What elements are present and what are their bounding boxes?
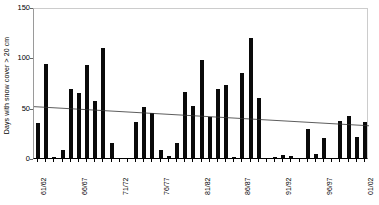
x-axis-tick-mark <box>192 159 193 162</box>
x-axis-tick-mark <box>201 159 202 162</box>
x-axis-tick-mark <box>282 159 283 162</box>
x-axis-tick-mark <box>315 159 316 162</box>
x-axis-tick-label: 71/72 <box>122 177 129 195</box>
plot-area <box>33 8 368 159</box>
x-axis-tick-mark <box>364 159 365 162</box>
x-axis-tick-mark <box>135 159 136 162</box>
x-axis-tick-mark <box>356 159 357 162</box>
x-axis-tick-labels: 61/6266/6771/7276/7781/8286/8791/9296/97… <box>33 163 368 205</box>
x-axis-tick-label: 81/82 <box>204 177 211 195</box>
x-axis-tick-mark <box>250 159 251 162</box>
trendline <box>34 9 369 160</box>
x-axis-tick-mark <box>151 159 152 162</box>
x-axis-tick-mark <box>307 159 308 162</box>
x-axis-tick-mark <box>62 159 63 162</box>
y-axis-tick-label: 0 <box>12 155 30 163</box>
x-axis-tick-mark <box>339 159 340 162</box>
x-axis-tick-mark <box>266 159 267 162</box>
x-axis-tick-mark <box>258 159 259 162</box>
x-axis-tick-mark <box>274 159 275 162</box>
x-axis-tick-mark <box>233 159 234 162</box>
x-axis-tick-label: 01/02 <box>367 177 374 195</box>
x-axis-tick-mark <box>143 159 144 162</box>
x-axis-tick-mark <box>184 159 185 162</box>
x-axis-tick-label: 86/87 <box>244 177 251 195</box>
x-axis-tick-mark <box>86 159 87 162</box>
snow-cover-bar-chart: Days with snow cover > 20 cm 050100150 6… <box>0 0 379 205</box>
trendline-layer <box>34 9 367 158</box>
x-axis-tick-mark <box>53 159 54 162</box>
x-axis-tick-label: 76/77 <box>163 177 170 195</box>
x-axis-tick-mark <box>290 159 291 162</box>
x-axis-tick-mark <box>70 159 71 162</box>
x-axis-tick-mark <box>45 159 46 162</box>
x-axis-tick-label: 66/67 <box>81 177 88 195</box>
y-axis-title-text: Days with snow cover > 20 cm <box>4 36 11 134</box>
y-axis-tick-label: 150 <box>12 4 30 12</box>
y-axis-tick-labels: 050100150 <box>12 0 30 205</box>
x-axis-tick-mark <box>78 159 79 162</box>
x-axis-tick-mark <box>94 159 95 162</box>
x-axis-tick-mark <box>241 159 242 162</box>
x-axis-tick-mark <box>348 159 349 162</box>
x-axis-tick-mark <box>102 159 103 162</box>
x-axis-tick-label: 96/97 <box>326 177 333 195</box>
x-axis-tick-label: 61/62 <box>40 177 47 195</box>
x-axis-tick-mark <box>119 159 120 162</box>
x-axis-tick-mark <box>127 159 128 162</box>
y-axis-tick-label: 50 <box>12 105 30 113</box>
x-axis-tick-mark <box>160 159 161 162</box>
x-axis-tick-mark <box>323 159 324 162</box>
x-axis-tick-mark <box>111 159 112 162</box>
x-axis-tick-mark <box>217 159 218 162</box>
x-axis-tick-mark <box>37 159 38 162</box>
x-axis-tick-mark <box>209 159 210 162</box>
x-axis-tick-mark <box>225 159 226 162</box>
x-axis-tick-mark <box>331 159 332 162</box>
x-axis-tick-mark <box>176 159 177 162</box>
x-axis-tick-mark <box>168 159 169 162</box>
y-axis-tick-label: 100 <box>12 55 30 63</box>
x-axis-tick-label: 91/92 <box>285 177 292 195</box>
x-axis-tick-mark <box>299 159 300 162</box>
